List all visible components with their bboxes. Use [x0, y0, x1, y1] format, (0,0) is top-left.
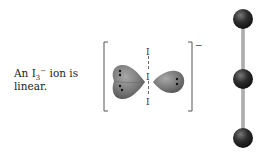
left-lone-pair-lobe — [113, 65, 145, 99]
right-lone-pair-lobe — [153, 71, 184, 93]
iodine-axis: I I I — [146, 47, 150, 107]
iodine-atom-center — [233, 69, 253, 89]
iodine-atom-top — [233, 9, 253, 29]
ball-and-stick-model — [233, 9, 253, 148]
electron-dot — [121, 89, 123, 91]
right-bracket — [188, 42, 192, 111]
left-bracket — [104, 42, 108, 111]
charge-label: − — [195, 40, 203, 50]
iodine-label-center: I — [146, 72, 150, 82]
iodine-atom-bottom — [233, 128, 253, 148]
iodine-label-top: I — [146, 47, 150, 57]
diagram-canvas: − I I I — [0, 0, 268, 155]
electron-dot — [119, 85, 121, 87]
electron-dot — [119, 74, 121, 76]
electron-dot — [176, 83, 178, 85]
iodine-label-bottom: I — [146, 97, 150, 107]
electron-dot — [176, 78, 178, 80]
electron-dot — [119, 70, 121, 72]
